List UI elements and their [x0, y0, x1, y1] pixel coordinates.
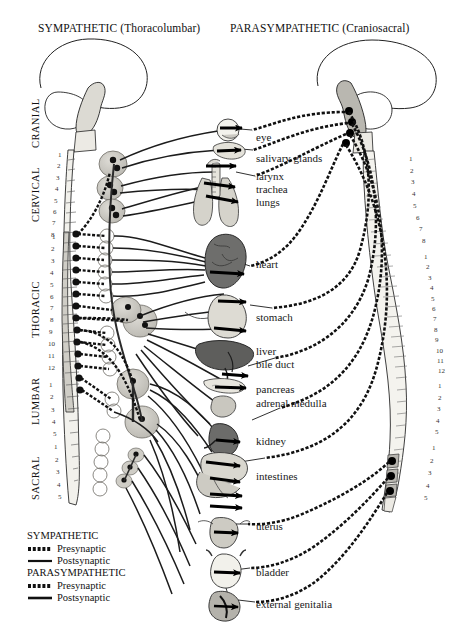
- segment-number-thoracic-2: 2: [51, 245, 55, 253]
- segment-number-sacral-3: 3: [428, 469, 432, 477]
- region-label-sacral: SACRAL: [30, 456, 41, 500]
- segment-number-thoracic-8: 8: [50, 316, 54, 324]
- brain-left: [40, 39, 147, 152]
- organ-heart: [205, 234, 246, 288]
- segment-number-thoracic-4: 4: [430, 284, 434, 292]
- legend-title-sympathetic: SYMPATHETIC: [27, 530, 98, 541]
- segment-number-thoracic-6: 6: [50, 293, 54, 301]
- region-label-thoracic: THORACIC: [30, 281, 41, 338]
- segment-number-cervical-7: 7: [52, 219, 56, 227]
- brain-right: [317, 40, 436, 153]
- segment-number-cervical-2: 2: [410, 167, 414, 175]
- organ-pancreas: [204, 379, 246, 394]
- organ-external-genitalia: [209, 591, 240, 621]
- segment-number-cervical-8: 8: [422, 237, 426, 245]
- segment-number-thoracic-10: 10: [48, 340, 55, 348]
- legend-parasympathetic-postsynaptic: Postsynaptic: [57, 592, 110, 603]
- segment-number-thoracic-1: 1: [424, 253, 428, 261]
- segment-number-thoracic-11: 11: [48, 352, 55, 360]
- segment-number-sacral-4: 4: [426, 482, 430, 490]
- sympathetic-chain-ganglia: [93, 151, 159, 496]
- organ-label-bladder: bladder: [256, 566, 289, 578]
- segment-number-cervical-3: 3: [56, 174, 60, 182]
- segment-number-cervical-3: 3: [411, 178, 415, 186]
- segment-number-cervical-2: 2: [57, 162, 61, 170]
- segment-number-lumbar-4: 4: [52, 418, 56, 426]
- segment-number-cervical-6: 6: [53, 208, 57, 216]
- segment-number-thoracic-9: 9: [435, 336, 439, 344]
- segment-number-sacral-4: 4: [57, 481, 61, 489]
- spinal-column-right: [363, 151, 407, 512]
- segment-number-thoracic-8: 8: [434, 326, 438, 334]
- segment-number-cervical-1: 1: [409, 155, 413, 163]
- organ-larynx-trachea-lungs: [193, 159, 238, 226]
- segment-number-cervical-6: 6: [416, 214, 420, 222]
- segment-number-thoracic-3: 3: [428, 274, 432, 282]
- organ-label-trachea: trachea: [256, 183, 288, 195]
- segment-number-lumbar-1: 1: [438, 382, 442, 390]
- legend-title-parasympathetic: PARASYMPATHETIC: [27, 567, 125, 578]
- segment-number-thoracic-7: 7: [433, 315, 437, 323]
- segment-number-lumbar-2: 2: [50, 393, 54, 401]
- organ-label-external-genitalia: external genitalia: [256, 598, 332, 610]
- autonomic-nervous-system-diagram: SYMPATHETIC (Thoracolumbar) PARASYMPATHE…: [0, 0, 463, 628]
- organ-label-stomach: stomach: [256, 311, 293, 323]
- segment-number-sacral-3: 3: [56, 468, 60, 476]
- organ-intestines: [197, 453, 248, 508]
- segment-number-cervical-4: 4: [412, 190, 416, 198]
- organ-label-kidney: kidney: [256, 435, 286, 447]
- segment-number-thoracic-9: 9: [49, 328, 53, 336]
- organ-liver-bile-duct: [195, 341, 253, 384]
- segment-number-lumbar-4: 4: [436, 417, 440, 425]
- organ-label-eye: eye: [256, 131, 271, 143]
- organ-label-intestines: intestines: [256, 470, 298, 482]
- segment-number-lumbar-1: 1: [49, 381, 53, 389]
- organ-label-heart: heart: [256, 258, 278, 270]
- segment-number-sacral-2: 2: [55, 456, 59, 464]
- segment-number-thoracic-1: 1: [52, 233, 56, 241]
- organ-label-pancreas: pancreas: [256, 383, 294, 395]
- segment-number-lumbar-2: 2: [438, 394, 442, 402]
- organ-label-bile-duct: bile duct: [256, 358, 294, 370]
- segment-number-cervical-5: 5: [413, 202, 417, 210]
- legend-parasympathetic-presynaptic: Presynaptic: [57, 580, 106, 591]
- segment-number-lumbar-3: 3: [51, 406, 55, 414]
- segment-number-cervical-5: 5: [54, 197, 58, 205]
- organ-label-liver: liver: [256, 345, 276, 357]
- segment-number-cervical-4: 4: [55, 185, 59, 193]
- organ-eye: [217, 119, 242, 141]
- segment-number-thoracic-2: 2: [426, 263, 430, 271]
- segment-number-lumbar-3: 3: [437, 405, 441, 413]
- organ-stomach: [185, 295, 246, 338]
- organ-label-uterus: uterus: [256, 520, 283, 532]
- segment-number-sacral-5: 5: [58, 493, 62, 501]
- segment-number-thoracic-4: 4: [50, 269, 54, 277]
- segment-number-thoracic-10: 10: [436, 347, 443, 355]
- organ-adrenal-medulla: [211, 396, 236, 417]
- organ-label-larynx: larynx: [256, 170, 284, 182]
- segment-number-thoracic-5: 5: [431, 295, 435, 303]
- segment-number-sacral-2: 2: [430, 457, 434, 465]
- segment-number-lumbar-5: 5: [53, 430, 57, 438]
- organ-label-lungs: lungs: [256, 196, 280, 208]
- segment-number-thoracic-12: 12: [438, 367, 445, 375]
- segment-number-thoracic-11: 11: [437, 357, 444, 365]
- segment-number-cervical-7: 7: [419, 225, 423, 233]
- segment-number-lumbar-5: 5: [435, 428, 439, 436]
- organ-kidney: [204, 424, 240, 456]
- segment-number-thoracic-6: 6: [432, 305, 436, 313]
- organ-salivary-glands: [213, 142, 245, 159]
- region-label-cervical: CERVICAL: [30, 167, 41, 222]
- organ-label-adrenal-medulla: adrenal medulla: [256, 397, 327, 409]
- segment-number-sacral-1: 1: [432, 444, 436, 452]
- segment-number-cervical-1: 1: [58, 151, 62, 159]
- organ-uterus: [198, 518, 250, 549]
- legend-sympathetic-postsynaptic: Postsynaptic: [57, 555, 110, 566]
- segment-number-sacral-1: 1: [54, 443, 58, 451]
- segment-number-thoracic-3: 3: [51, 257, 55, 265]
- organ-label-salivary-glands: salivary glands: [256, 152, 322, 164]
- region-label-lumbar: LUMBAR: [30, 378, 41, 425]
- segment-number-sacral-5: 5: [424, 494, 428, 502]
- segment-number-thoracic-7: 7: [50, 304, 54, 312]
- legend-sympathetic-presynaptic: Presynaptic: [57, 543, 106, 554]
